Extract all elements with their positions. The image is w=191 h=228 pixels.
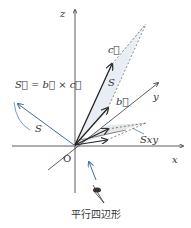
caption: 平行四辺形 — [0, 206, 191, 221]
projection-label: Sxy — [140, 135, 158, 145]
y-axis-label: y — [153, 92, 159, 102]
eye-pupil-icon — [93, 188, 101, 193]
normal-area-label: S — [35, 124, 42, 134]
cross-product-label: S⃗ = b⃗ × c⃗ — [15, 80, 81, 90]
origin-label: O — [63, 154, 71, 164]
z-axis-label: z — [60, 9, 65, 19]
diagram-graphic — [0, 0, 191, 228]
x-axis-label: x — [172, 155, 178, 165]
vector-b-label: b⃗ — [116, 97, 128, 107]
vector-c-label: c⃗ — [108, 45, 120, 55]
parallelogram-diagram: z x y O c⃗ b⃗ S S⃗ = b⃗ × c⃗ S Sxy 平行四辺形 — [0, 0, 191, 228]
area-label: S — [108, 78, 115, 88]
normal-vector — [18, 104, 74, 145]
